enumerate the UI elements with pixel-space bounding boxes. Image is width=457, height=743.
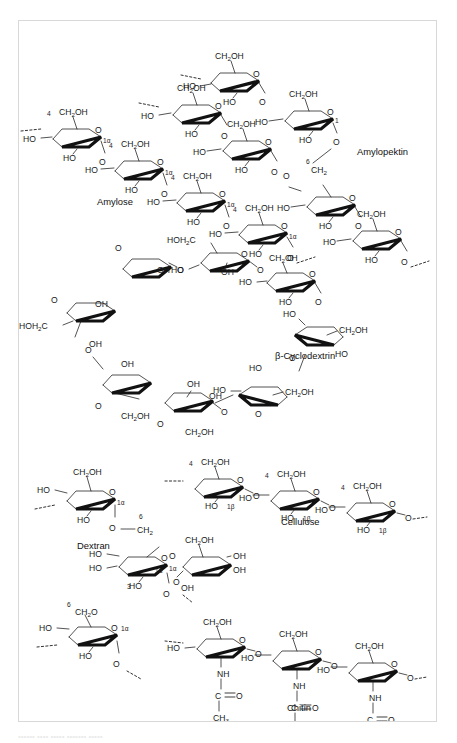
position-3: 3 (127, 583, 131, 590)
group-nh: NH (217, 669, 229, 679)
group-oh: OH (233, 565, 246, 575)
group-o-ring: O (265, 137, 272, 147)
group-nh: NH (293, 681, 305, 691)
group-ch2oh: CH2OH (185, 427, 214, 438)
structure-chitin: CH2OH HO O NH C O CH3 O CH2OH (165, 617, 427, 721)
group-ho: HO (37, 485, 50, 495)
group-ho: HO (141, 111, 154, 121)
group-ho: HO (255, 117, 268, 127)
group-o-link: O (315, 297, 322, 307)
group-ch2oh: CH2OH (339, 325, 368, 336)
group-oh: OH (221, 267, 234, 277)
group-o-link: O (177, 265, 184, 275)
group-o-ring: O (315, 647, 322, 657)
label-dextran: Dextran (77, 540, 110, 551)
amylose-unit: CH2OH 4 HO O HO 1α O (21, 107, 111, 167)
group-ch2oh: CH2OH (121, 411, 150, 422)
group-o-link: O (405, 513, 412, 523)
group-ho: HO (223, 97, 236, 107)
group-o-link: O (333, 137, 340, 147)
group-o-link: O (255, 649, 262, 659)
amylose-unit: CH2OH 4 HO O HO 1α O (85, 139, 173, 199)
group-oh: OH (95, 299, 108, 309)
group-ho: HO (89, 563, 102, 573)
group-ch2oh: CH2OH (215, 51, 244, 62)
group-ch2oh: CH2OH (203, 617, 232, 628)
structure-beta-cyclodextrin: HOH2C O HO OH O CH2OH O HO HO O (19, 235, 368, 438)
group-o-ring: O (327, 107, 334, 117)
group-carbonyl-o: O (236, 691, 243, 701)
group-ch2oh: CH2OH (121, 139, 150, 150)
position-1-alpha: 1α (289, 233, 297, 240)
group-oh: OH (209, 391, 222, 401)
group-o-link: O (283, 171, 290, 181)
group-ho: HO (335, 349, 348, 359)
group-o-ring: O (391, 659, 398, 669)
group-o-ring: O (313, 487, 320, 497)
amylopektin-unit: CH2OH HO O HO O (193, 119, 278, 177)
group-o-link: O (407, 673, 414, 683)
group-ch2o: CH2O (75, 607, 98, 618)
group-ho: HO (39, 623, 52, 633)
group-o-ring: O (349, 193, 356, 203)
position-1-alpha: 1α (155, 567, 163, 574)
group-o-ring: O (237, 475, 244, 485)
group-ch2oh: CH2OH (245, 203, 274, 214)
group-o-ring: O (95, 401, 102, 411)
group-carbonyl-c: C (215, 691, 221, 701)
amylopektin-unit: CH2OH HO O HO O (139, 83, 228, 141)
position-6: 6 (139, 513, 143, 520)
position-1-alpha: 1α (169, 565, 177, 572)
position-1-alpha: 1α (117, 499, 125, 506)
label-amylose: Amylose (97, 196, 133, 207)
group-o-ring: O (169, 551, 176, 561)
group-ho: HO (279, 297, 292, 307)
group-ch2: CH2 (137, 525, 153, 536)
group-oh: OH (89, 339, 102, 349)
dextran-unit: HO HO O HO 1α O OH (89, 547, 194, 599)
group-o-ring: O (51, 295, 58, 305)
structure-dextran: CH2OH HO O HO 1α O 6 CH2 HO HO (35, 467, 246, 679)
caption-clipped-text: •••••• •••• ••••• ••••••• ••••• (18, 730, 437, 743)
group-ho: HO (239, 277, 252, 287)
group-o-ring: O (281, 221, 288, 231)
amylose-unit: CH2OH 4 HO O HO 1α O (209, 203, 315, 263)
amylopektin-unit: HO O HO O O (277, 171, 362, 231)
group-ho: HO (299, 135, 312, 145)
group-o-link: O (331, 661, 338, 671)
figure-frame: CH2OH HO O HO O CH2OH HO O HO 1 (18, 20, 437, 722)
group-o-link: O (223, 221, 230, 231)
group-hoh2c: HOH2C (167, 235, 196, 246)
group-o-link: O (113, 659, 120, 669)
position-4: 4 (47, 110, 51, 117)
group-ho: HO (129, 581, 142, 591)
cyclodextrin-unit: OH O O CH2OH (85, 345, 151, 422)
group-ho: HO (249, 363, 262, 373)
group-o-ring: O (219, 189, 226, 199)
label-amylopektin: Amylopektin (357, 146, 408, 157)
group-o-link: O (161, 189, 168, 199)
group-o-link: O (257, 265, 264, 275)
group-ho: HO (315, 505, 328, 515)
polysaccharide-diagram: CH2OH HO O HO O CH2OH HO O HO 1 (19, 21, 436, 721)
group-o-ring: O (241, 249, 248, 259)
chitin-unit: CH2OH HO O NH C O CH3 O (317, 641, 427, 721)
group-ch2oh: CH2OH (73, 467, 102, 478)
group-ch3: CH3 (213, 713, 229, 721)
group-ch2oh: CH2OH (279, 629, 308, 640)
group-ch2oh: CH2OH (59, 107, 88, 118)
group-o-link: O (109, 523, 116, 533)
group-ho: HO (241, 653, 254, 663)
group-ho: HO (317, 665, 330, 675)
group-ch2oh: CH2OH (269, 253, 298, 264)
group-oh: OH (187, 379, 200, 389)
group-ho: HO (205, 501, 218, 511)
group-carbonyl-o: O (312, 703, 319, 713)
group-ho: HO (23, 134, 36, 144)
position-4: 4 (189, 460, 193, 467)
group-oh: OH (157, 265, 170, 275)
group-ho: HO (187, 217, 200, 227)
cyclodextrin-unit: CH2OH O HO HO O (239, 253, 322, 307)
position-1: 1 (335, 117, 339, 124)
group-o-ring: O (95, 125, 102, 135)
